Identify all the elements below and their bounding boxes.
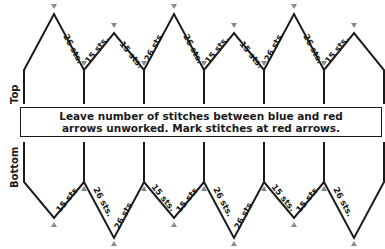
stitch-count-label: 26 sts.: [61, 32, 85, 65]
instruction-line-1: Leave number of stitches between blue an…: [59, 110, 343, 122]
top-section-label: Top: [9, 84, 20, 104]
arrow-up-icon: [111, 241, 117, 246]
stitch-count-label: 15 sts.: [323, 34, 351, 65]
arrow-up-icon: [291, 222, 297, 227]
stitch-count-label: 15 sts.: [83, 34, 111, 65]
stitch-count-label: 15 sts.: [174, 183, 202, 214]
top-dividers: [84, 70, 324, 104]
arrow-down-icon: [111, 23, 117, 28]
instruction-line-2: arrows unworked. Mark stitches at red ar…: [62, 122, 340, 134]
arrow-down-icon: [231, 23, 237, 28]
stitch-count-label: 15 sts.: [54, 183, 82, 214]
stitch-count-label: 26 sts.: [112, 198, 136, 231]
arrow-down-icon: [171, 4, 177, 9]
top-stitch-labels: 26 sts. 15 sts. 15 sts. 26 sts. 26 sts. …: [61, 30, 351, 70]
arrow-down-icon: [351, 23, 357, 28]
arrow-down-icon: [51, 4, 57, 9]
instruction-note-box: Leave number of stitches between blue an…: [20, 107, 382, 137]
stitch-count-label: 26 sts.: [262, 30, 286, 63]
arrow-up-icon: [171, 222, 177, 227]
stitch-count-label: 26 sts.: [232, 198, 256, 231]
arrow-up-icon: [231, 241, 237, 246]
stitch-count-label: 15 sts.: [117, 39, 145, 70]
arrow-up-icon: [51, 222, 57, 227]
bottom-dividers: [84, 142, 324, 182]
arrow-up-icon: [351, 241, 357, 246]
stitch-count-label: 15 sts.: [237, 39, 265, 70]
stitch-count-label: 26 sts.: [142, 30, 166, 63]
stitch-count-label: 15 sts.: [203, 34, 231, 65]
stitch-count-label: 26 sts.: [301, 32, 325, 65]
stitch-count-label: 26 sts.: [181, 32, 205, 65]
arrow-down-icon: [291, 4, 297, 9]
bottom-section-label: Bottom: [9, 147, 20, 188]
stitch-count-label: 15 sts.: [294, 183, 322, 214]
